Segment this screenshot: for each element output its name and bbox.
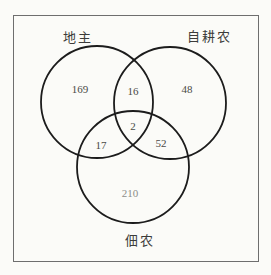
figure-border	[14, 16, 259, 262]
value-self-and-tenant: 52	[156, 137, 167, 149]
value-tenant-only: 210	[122, 187, 139, 199]
value-landlord-and-tenant: 17	[96, 139, 108, 151]
value-landlord-and-self: 16	[128, 85, 140, 97]
set-label-landlord: 地主	[63, 30, 93, 45]
set-label-tenant-farmer: 佃农	[125, 233, 155, 248]
set-label-self-farming-peasant: 自耕农	[187, 29, 232, 44]
venn-diagram-canvas: 地主 自耕农 佃农 169 16 48 2 17 52 210	[0, 0, 271, 275]
circle-self-farming-peasant	[114, 47, 226, 159]
value-self-only: 48	[182, 83, 194, 95]
value-all-three: 2	[130, 120, 136, 132]
venn-diagram-figure: 地主 自耕农 佃农 169 16 48 2 17 52 210	[0, 0, 271, 275]
value-landlord-only: 169	[72, 83, 89, 95]
